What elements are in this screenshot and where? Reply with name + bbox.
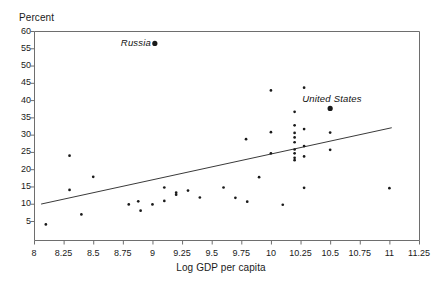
scatter-point <box>245 138 248 141</box>
scatter-point <box>222 186 225 189</box>
scatter-point <box>293 136 296 139</box>
scatter-chart-figure: Percent 51015202530354045505560 88.258.5… <box>0 0 442 288</box>
scatter-point <box>92 175 95 178</box>
scatter-point <box>303 86 306 89</box>
scatter-point <box>293 148 296 151</box>
scatter-point <box>270 152 273 155</box>
scatter-point <box>175 193 178 196</box>
point-annotation-label: United States <box>302 93 362 104</box>
scatter-point <box>68 189 71 192</box>
plot-area <box>0 0 442 288</box>
scatter-point <box>44 223 47 226</box>
scatter-point <box>127 203 130 206</box>
scatter-point <box>187 189 190 192</box>
x-axis-title: Log GDP per capita <box>0 262 442 273</box>
scatter-point <box>246 200 249 203</box>
scatter-point <box>293 124 296 127</box>
scatter-point <box>293 159 296 162</box>
scatter-point <box>329 131 332 134</box>
scatter-point <box>270 89 273 92</box>
scatter-point <box>198 196 201 199</box>
scatter-point <box>303 128 306 131</box>
scatter-point <box>163 186 166 189</box>
scatter-point <box>270 131 273 134</box>
highlighted-scatter-point <box>328 106 333 111</box>
point-annotation-label: Russia <box>121 37 151 48</box>
scatter-point <box>293 152 296 155</box>
scatter-point <box>303 155 306 158</box>
scatter-point <box>151 203 154 206</box>
highlighted-scatter-point <box>152 41 157 46</box>
scatter-point <box>258 176 261 179</box>
scatter-point <box>163 200 166 203</box>
scatter-point <box>80 213 83 216</box>
scatter-point <box>293 110 296 113</box>
scatter-point <box>68 154 71 157</box>
trend-line <box>41 128 392 204</box>
scatter-point <box>139 209 142 212</box>
scatter-point <box>293 141 296 144</box>
scatter-point <box>137 200 140 203</box>
scatter-point <box>329 148 332 151</box>
scatter-point <box>293 156 296 159</box>
scatter-point <box>303 186 306 189</box>
scatter-point <box>388 187 391 190</box>
scatter-point <box>281 203 284 206</box>
scatter-point <box>293 132 296 135</box>
scatter-point <box>234 197 237 200</box>
scatter-point <box>303 145 306 148</box>
